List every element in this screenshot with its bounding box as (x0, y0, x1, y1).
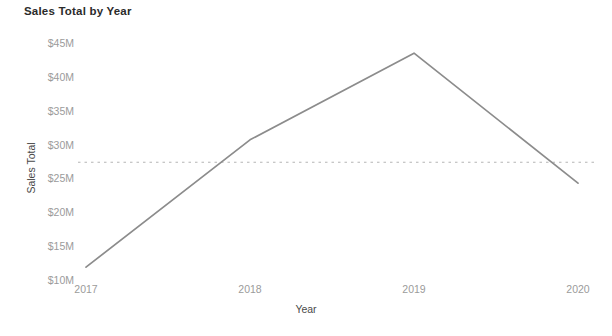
plot-area (0, 0, 612, 336)
sales-total-line (86, 53, 578, 267)
chart-container: Sales Total by Year Sales Total $45M$40M… (0, 0, 612, 336)
